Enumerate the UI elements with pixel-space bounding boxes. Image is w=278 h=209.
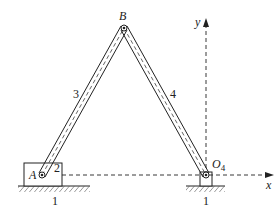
ground-right-label: 1 — [203, 194, 209, 208]
joint-b — [121, 25, 127, 31]
ground-right — [186, 186, 225, 192]
joint-o4 — [203, 172, 209, 178]
y-axis — [203, 18, 209, 175]
slider-label-2: 2 — [54, 161, 60, 175]
point-label-o4: O4 — [212, 157, 226, 173]
x-axis-label: x — [265, 178, 272, 192]
link-label-3: 3 — [73, 87, 79, 101]
link-label-4: 4 — [170, 87, 176, 101]
joint-a — [39, 172, 45, 178]
ground-left — [18, 186, 90, 192]
point-label-a: A — [28, 168, 37, 182]
link-3 — [39, 26, 127, 177]
point-label-b: B — [119, 9, 127, 23]
mechanism-diagram: 1 1 2 x y 3 4 A B — [0, 0, 278, 209]
y-axis-label: y — [194, 15, 201, 29]
x-axis — [62, 172, 274, 178]
ground-left-label: 1 — [52, 194, 58, 208]
link-4 — [121, 26, 209, 177]
